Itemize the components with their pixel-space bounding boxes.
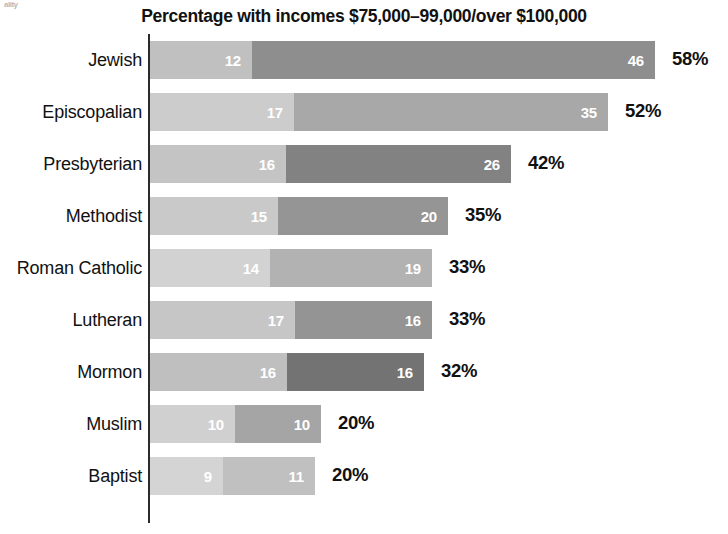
bar-row: Jewish124658%	[0, 40, 728, 80]
category-label: Muslim	[86, 404, 142, 444]
stacked-bar: 1735	[150, 93, 608, 131]
bar-segment-income-75k: 14	[150, 249, 270, 287]
category-label: Roman Catholic	[17, 248, 142, 288]
bar-segment-value: 10	[294, 417, 321, 432]
bar-segment-income-100k: 16	[295, 301, 432, 339]
row-total-label: 42%	[528, 144, 564, 182]
row-total-label: 58%	[672, 40, 708, 78]
bar-segment-income-100k: 11	[223, 457, 315, 495]
bar-segment-value: 20	[421, 209, 448, 224]
bar-row: Presbyterian162642%	[0, 144, 728, 184]
bar-segment-income-75k: 17	[150, 93, 294, 131]
row-total-label: 20%	[338, 404, 374, 442]
bar-segment-value: 17	[268, 313, 295, 328]
stacked-bar: 1616	[150, 353, 424, 391]
row-total-label: 35%	[465, 196, 501, 234]
bar-segment-income-75k: 12	[150, 41, 252, 79]
bar-segment-value: 12	[225, 53, 252, 68]
plot-area: Jewish124658%Episcopalian173552%Presbyte…	[0, 34, 728, 524]
bar-segment-income-100k: 10	[235, 405, 321, 443]
stacked-bar: 1716	[150, 301, 432, 339]
bar-segment-income-100k: 35	[294, 93, 608, 131]
bar-segment-value: 10	[208, 417, 235, 432]
bar-segment-income-75k: 10	[150, 405, 235, 443]
bar-row: Muslim101020%	[0, 404, 728, 444]
stacked-bar: 1246	[150, 41, 655, 79]
bar-row: Mormon161632%	[0, 352, 728, 392]
stacked-bar: 1626	[150, 145, 511, 183]
bar-segment-value: 16	[405, 313, 432, 328]
bar-segment-income-75k: 15	[150, 197, 278, 235]
category-label: Methodist	[66, 196, 142, 236]
bar-segment-income-100k: 19	[270, 249, 432, 287]
bar-segment-value: 16	[259, 157, 286, 172]
row-total-label: 52%	[625, 92, 661, 130]
stacked-bar: 1520	[150, 197, 448, 235]
bar-segment-value: 17	[267, 105, 294, 120]
bar-segment-value: 14	[243, 261, 270, 276]
category-label: Presbyterian	[43, 144, 142, 184]
category-label: Mormon	[77, 352, 142, 392]
bar-row: Baptist91120%	[0, 456, 728, 496]
category-label: Baptist	[88, 456, 142, 496]
bar-segment-value: 35	[581, 105, 608, 120]
bar-segment-income-75k: 16	[150, 353, 287, 391]
stacked-bar: 1010	[150, 405, 321, 443]
bar-segment-value: 15	[251, 209, 278, 224]
bar-segment-value: 16	[260, 365, 287, 380]
bar-segment-income-100k: 20	[278, 197, 448, 235]
category-label: Episcopalian	[42, 92, 142, 132]
bar-segment-income-75k: 9	[150, 457, 223, 495]
chart-title: Percentage with incomes $75,000–99,000/o…	[0, 6, 728, 27]
stacked-bar: 911	[150, 457, 315, 495]
bar-segment-value: 26	[484, 157, 511, 172]
bar-segment-income-100k: 46	[252, 41, 655, 79]
bar-segment-income-75k: 17	[150, 301, 295, 339]
bar-row: Roman Catholic141933%	[0, 248, 728, 288]
bar-segment-value: 11	[289, 469, 315, 484]
bar-row: Methodist152035%	[0, 196, 728, 236]
category-label: Lutheran	[73, 300, 142, 340]
bar-segment-value: 46	[628, 53, 655, 68]
bar-segment-income-75k: 16	[150, 145, 286, 183]
bar-segment-value: 9	[204, 469, 223, 484]
bar-row: Lutheran171633%	[0, 300, 728, 340]
bar-segment-income-100k: 16	[287, 353, 424, 391]
bar-row: Episcopalian173552%	[0, 92, 728, 132]
row-total-label: 33%	[449, 300, 485, 338]
category-label: Jewish	[88, 40, 142, 80]
bar-segment-income-100k: 26	[286, 145, 511, 183]
chart-container: ality Percentage with incomes $75,000–99…	[0, 0, 728, 534]
row-total-label: 20%	[332, 456, 368, 494]
bar-segment-value: 19	[405, 261, 432, 276]
row-total-label: 32%	[441, 352, 477, 390]
bar-segment-value: 16	[397, 365, 424, 380]
stacked-bar: 1419	[150, 249, 432, 287]
row-total-label: 33%	[449, 248, 485, 286]
